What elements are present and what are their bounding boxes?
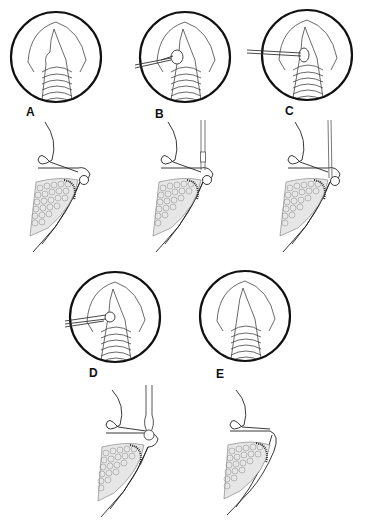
instrument-shaft-icon xyxy=(201,120,206,170)
sagittal-view-e xyxy=(190,275,315,525)
sagittal-view-b xyxy=(125,0,250,260)
panel-a: A xyxy=(0,0,125,260)
panel-b: B xyxy=(125,0,250,260)
probe-shaft-icon xyxy=(328,120,332,178)
lesion-a xyxy=(80,176,89,185)
figure-canvas: A xyxy=(0,0,370,527)
forceps-grasp-icon xyxy=(144,385,154,440)
panel-e: E xyxy=(190,275,315,525)
sagittal-view-c xyxy=(245,0,370,260)
panel-c: C xyxy=(245,0,370,260)
sagittal-view-a xyxy=(0,0,125,260)
gland-stipple-a xyxy=(30,178,78,236)
panel-d: D xyxy=(60,275,185,525)
sagittal-view-d xyxy=(60,275,185,525)
